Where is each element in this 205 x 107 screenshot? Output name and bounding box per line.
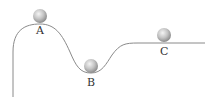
label-b: B (87, 76, 95, 89)
label-a: A (35, 24, 45, 37)
label-c: C (160, 45, 168, 58)
ball-b (84, 59, 98, 73)
ball-a (33, 9, 47, 23)
equilibrium-diagram: A B C (0, 0, 205, 107)
ball-c (157, 28, 171, 42)
